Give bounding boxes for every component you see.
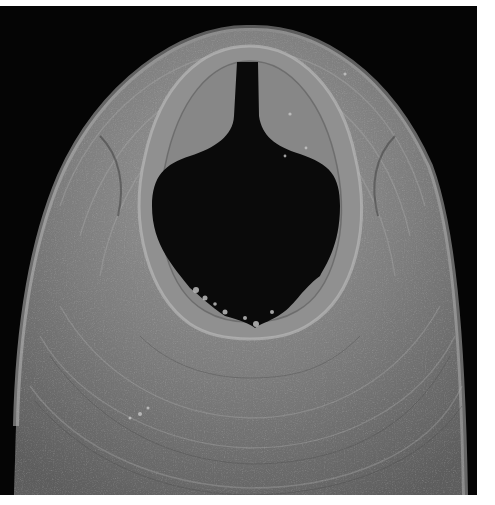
micrograph-frame xyxy=(0,6,477,495)
sem-micrograph xyxy=(0,6,477,495)
